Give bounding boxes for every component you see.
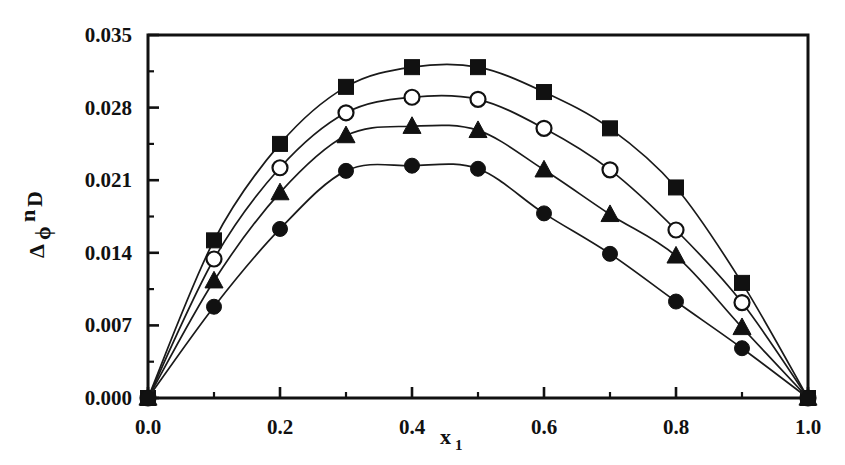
data-point: [339, 163, 354, 178]
y-tick-label: 0.007: [85, 313, 132, 337]
y-tick-label: 0.014: [85, 241, 133, 265]
data-point: [207, 252, 222, 267]
data-point: [537, 85, 552, 100]
x-axis-title-subscript: 1: [455, 437, 463, 453]
data-point: [141, 391, 156, 406]
series-line-2: [148, 95, 808, 398]
chart-figure: 0.00.20.40.60.81.0 0.0000.0070.0140.0210…: [0, 0, 845, 465]
y-axis-title-phi: ϕ: [30, 226, 55, 240]
data-point: [207, 233, 222, 248]
x-tick-label: 0.8: [663, 415, 689, 439]
data-point: [337, 126, 355, 143]
data-point: [273, 221, 288, 236]
data-point: [667, 246, 685, 263]
data-point: [273, 160, 288, 175]
data-point: [535, 160, 553, 177]
plot-frame: [148, 35, 808, 398]
y-axis-title: Δ ϕ n D: [15, 191, 55, 258]
data-point: [735, 295, 750, 310]
y-axis-tick-labels: 0.0000.0070.0140.0210.0280.035: [85, 23, 133, 410]
data-point: [339, 105, 354, 120]
data-point: [339, 79, 354, 94]
data-point: [405, 158, 420, 173]
series-group-3: [139, 117, 817, 405]
y-tick-label: 0.028: [85, 96, 132, 120]
data-point: [471, 92, 486, 107]
data-point: [537, 206, 552, 221]
x-axis-title-base: x: [440, 424, 451, 449]
data-point: [471, 60, 486, 75]
series-line-1: [148, 64, 808, 398]
data-point: [207, 299, 222, 314]
data-series-layer: [139, 60, 817, 406]
data-point: [405, 90, 420, 105]
x-axis-tick-labels: 0.00.20.40.60.81.0: [135, 415, 821, 439]
data-point: [669, 180, 684, 195]
data-point: [403, 117, 421, 134]
series-line-4: [148, 164, 808, 398]
x-tick-label: 0.6: [531, 415, 557, 439]
data-point: [801, 391, 816, 406]
data-point: [603, 162, 618, 177]
data-point: [273, 136, 288, 151]
data-point: [471, 161, 486, 176]
x-axis-title: x 1: [440, 424, 463, 453]
y-axis-title-n: n: [15, 210, 40, 222]
y-axis-title-d: D: [22, 191, 47, 207]
data-point: [669, 294, 684, 309]
data-point: [735, 341, 750, 356]
data-point: [205, 271, 223, 288]
series-group-1: [141, 60, 816, 406]
data-point: [601, 205, 619, 222]
data-point: [669, 222, 684, 237]
x-tick-label: 0.0: [135, 415, 161, 439]
x-tick-label: 1.0: [795, 415, 821, 439]
y-tick-label: 0.035: [85, 23, 132, 47]
data-point: [537, 121, 552, 136]
y-tick-label: 0.021: [85, 168, 132, 192]
y-tick-label: 0.000: [85, 386, 132, 410]
chart-canvas: 0.00.20.40.60.81.0 0.0000.0070.0140.0210…: [0, 0, 845, 465]
data-point: [603, 121, 618, 136]
data-point: [735, 275, 750, 290]
data-point: [405, 60, 420, 75]
data-point: [603, 246, 618, 261]
y-axis-title-delta: Δ: [24, 244, 49, 258]
x-tick-label: 0.4: [399, 415, 426, 439]
x-tick-label: 0.2: [267, 415, 293, 439]
